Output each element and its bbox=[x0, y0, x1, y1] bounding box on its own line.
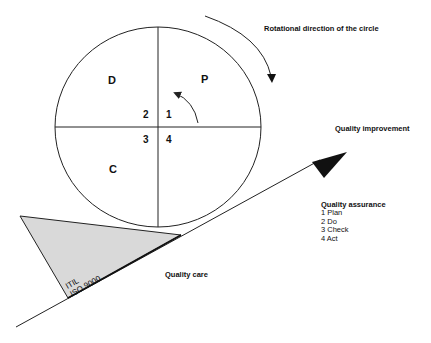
quadrant-check-label: C bbox=[109, 163, 117, 175]
care-caption: Quality care bbox=[165, 270, 208, 279]
improvement-caption: Quality improvement bbox=[335, 124, 410, 133]
legend-item-act: 4 Act bbox=[321, 235, 386, 244]
improvement-arrowhead-icon bbox=[312, 152, 347, 178]
step-number-2: 2 bbox=[143, 109, 149, 120]
step-number-4: 4 bbox=[166, 134, 172, 145]
step-number-1: 1 bbox=[166, 109, 172, 120]
rotation-caption: Rotational direction of the circle bbox=[264, 24, 379, 33]
wedge-triangle bbox=[20, 216, 181, 298]
inner-rotation-arrow-icon bbox=[175, 93, 198, 123]
quality-assurance-legend: Quality assurance 1 Plan 2 Do 3 Check 4 … bbox=[321, 200, 386, 243]
quadrant-plan-label: P bbox=[201, 73, 208, 85]
pdca-diagram bbox=[0, 0, 431, 343]
quadrant-do-label: D bbox=[108, 74, 116, 86]
step-number-3: 3 bbox=[143, 134, 149, 145]
outer-rotation-arrow-icon bbox=[205, 16, 271, 76]
